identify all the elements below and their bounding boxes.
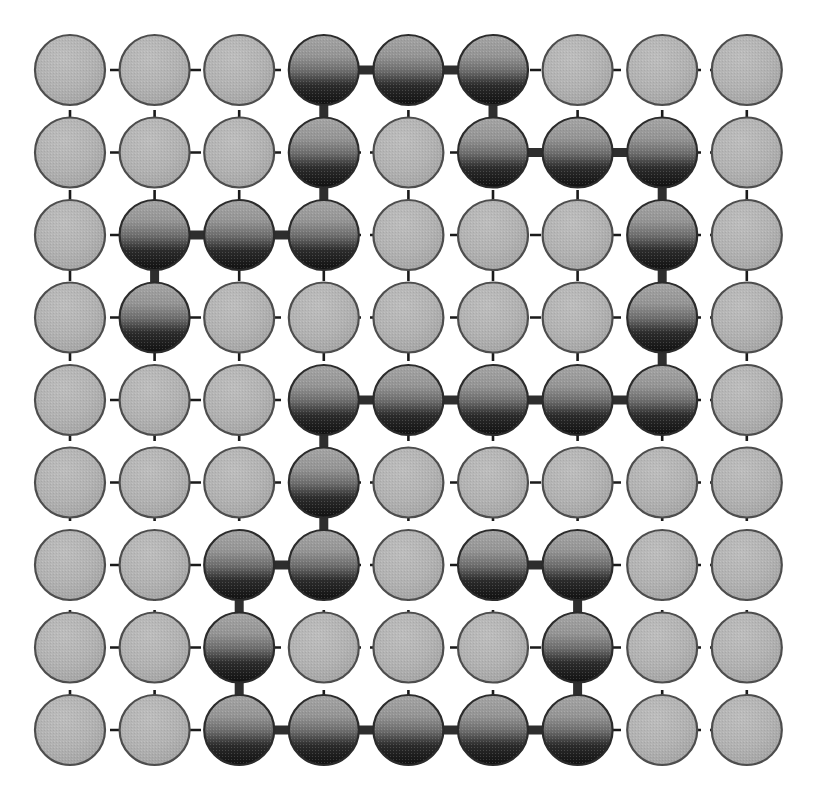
- site-empty: [627, 695, 697, 765]
- site-empty: [35, 530, 105, 600]
- site-texture: [121, 449, 189, 517]
- site-texture: [290, 531, 358, 599]
- site-texture: [713, 201, 781, 269]
- site-texture: [205, 119, 273, 187]
- site-empty: [35, 200, 105, 270]
- site-empty: [204, 118, 274, 188]
- site-texture: [375, 531, 443, 599]
- site-texture: [121, 696, 189, 764]
- site-texture: [628, 449, 696, 517]
- site-texture: [36, 119, 104, 187]
- site-texture: [544, 531, 612, 599]
- site-texture: [628, 201, 696, 269]
- site-occupied: [627, 200, 697, 270]
- site-empty: [35, 613, 105, 683]
- site-texture: [628, 284, 696, 352]
- site-texture: [713, 531, 781, 599]
- site-texture: [290, 449, 358, 517]
- site-empty: [627, 530, 697, 600]
- sites-layer: [35, 35, 782, 765]
- site-occupied: [373, 35, 443, 105]
- site-texture: [459, 284, 527, 352]
- site-empty: [712, 118, 782, 188]
- site-occupied: [543, 530, 613, 600]
- site-texture: [290, 696, 358, 764]
- site-empty: [712, 613, 782, 683]
- site-texture: [36, 36, 104, 104]
- site-empty: [712, 283, 782, 353]
- site-texture: [375, 366, 443, 434]
- site-texture: [205, 614, 273, 682]
- site-empty: [120, 118, 190, 188]
- site-texture: [459, 531, 527, 599]
- site-occupied: [289, 695, 359, 765]
- site-texture: [713, 284, 781, 352]
- site-texture: [628, 696, 696, 764]
- site-empty: [627, 448, 697, 518]
- site-empty: [120, 530, 190, 600]
- site-empty: [458, 613, 528, 683]
- site-occupied: [543, 695, 613, 765]
- site-texture: [375, 36, 443, 104]
- site-occupied: [204, 200, 274, 270]
- site-texture: [459, 449, 527, 517]
- site-texture: [544, 201, 612, 269]
- site-texture: [36, 614, 104, 682]
- site-empty: [712, 365, 782, 435]
- site-texture: [121, 284, 189, 352]
- site-occupied: [627, 283, 697, 353]
- site-texture: [628, 366, 696, 434]
- site-texture: [290, 119, 358, 187]
- site-occupied: [289, 200, 359, 270]
- site-texture: [544, 614, 612, 682]
- site-empty: [35, 695, 105, 765]
- site-empty: [543, 448, 613, 518]
- site-texture: [375, 284, 443, 352]
- site-empty: [120, 35, 190, 105]
- site-empty: [458, 448, 528, 518]
- site-empty: [120, 695, 190, 765]
- site-empty: [35, 283, 105, 353]
- site-empty: [373, 530, 443, 600]
- site-texture: [205, 201, 273, 269]
- site-empty: [120, 613, 190, 683]
- site-texture: [290, 366, 358, 434]
- site-occupied: [458, 365, 528, 435]
- site-empty: [204, 448, 274, 518]
- site-empty: [289, 283, 359, 353]
- site-occupied: [543, 118, 613, 188]
- site-texture: [713, 36, 781, 104]
- site-occupied: [204, 530, 274, 600]
- site-texture: [713, 366, 781, 434]
- site-texture: [459, 614, 527, 682]
- site-empty: [458, 283, 528, 353]
- site-texture: [375, 119, 443, 187]
- site-texture: [459, 366, 527, 434]
- site-texture: [36, 449, 104, 517]
- site-texture: [205, 284, 273, 352]
- site-texture: [544, 366, 612, 434]
- site-texture: [459, 696, 527, 764]
- site-texture: [36, 366, 104, 434]
- site-empty: [204, 283, 274, 353]
- site-texture: [713, 614, 781, 682]
- site-texture: [205, 36, 273, 104]
- site-texture: [36, 531, 104, 599]
- site-occupied: [543, 613, 613, 683]
- site-texture: [121, 614, 189, 682]
- site-texture: [713, 119, 781, 187]
- site-texture: [36, 201, 104, 269]
- site-occupied: [289, 365, 359, 435]
- site-occupied: [458, 35, 528, 105]
- site-texture: [121, 531, 189, 599]
- site-texture: [121, 366, 189, 434]
- site-texture: [375, 696, 443, 764]
- site-texture: [544, 696, 612, 764]
- site-empty: [712, 448, 782, 518]
- site-empty: [204, 365, 274, 435]
- site-texture: [121, 119, 189, 187]
- site-texture: [713, 449, 781, 517]
- site-texture: [205, 366, 273, 434]
- site-texture: [459, 119, 527, 187]
- site-texture: [375, 449, 443, 517]
